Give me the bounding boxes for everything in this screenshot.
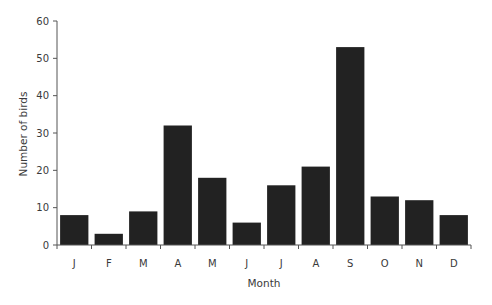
y-tick-label: 60: [36, 16, 49, 27]
x-tick-label: J: [72, 258, 76, 269]
bar-4: [198, 178, 226, 245]
bar-2: [129, 211, 157, 245]
x-tick-label: M: [208, 258, 217, 269]
bar-1: [95, 234, 123, 245]
bar-3: [164, 126, 192, 246]
y-tick-label: 50: [36, 53, 49, 64]
bar-8: [336, 47, 364, 245]
bar-6: [267, 185, 295, 245]
y-tick-label: 0: [43, 240, 49, 251]
x-tick-label: J: [244, 258, 248, 269]
x-tick-label: N: [416, 258, 423, 269]
bar-11: [440, 215, 468, 245]
y-tick-label: 20: [36, 165, 49, 176]
y-tick-label: 40: [36, 90, 49, 101]
bar-7: [302, 167, 330, 245]
bar-0: [60, 215, 88, 245]
x-axis-title: Month: [248, 277, 281, 289]
x-tick-label: D: [450, 258, 458, 269]
bar-chart: 0102030405060 JFMAMJJASOND Number of bir…: [0, 0, 492, 305]
x-tick-label: S: [347, 258, 353, 269]
x-axis: JFMAMJJASOND: [57, 245, 471, 269]
y-tick-label: 30: [36, 128, 49, 139]
y-axis: 0102030405060: [36, 16, 57, 251]
bar-9: [371, 197, 399, 246]
x-tick-label: A: [174, 258, 181, 269]
x-tick-label: O: [381, 258, 389, 269]
bar-5: [233, 223, 261, 245]
bar-10: [405, 200, 433, 245]
x-tick-label: J: [279, 258, 283, 269]
bars-group: [60, 47, 468, 245]
y-axis-title: Number of birds: [17, 92, 29, 177]
x-tick-label: A: [312, 258, 319, 269]
x-tick-label: M: [139, 258, 148, 269]
y-tick-label: 10: [36, 202, 49, 213]
x-tick-label: F: [106, 258, 112, 269]
